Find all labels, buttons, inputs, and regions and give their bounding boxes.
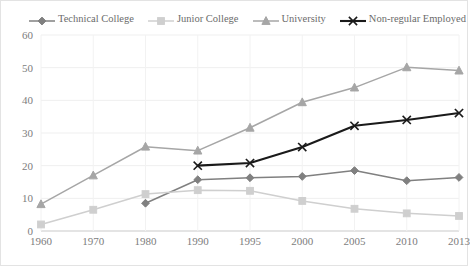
data-point-square — [90, 206, 97, 213]
y-axis-tick-label: 30 — [9, 127, 33, 139]
legend-item[interactable]: Non-regular Employed — [340, 13, 466, 25]
data-point-diamond — [194, 176, 202, 184]
data-point-square — [142, 191, 149, 198]
data-point-square — [158, 18, 165, 25]
y-axis-tick-label: 20 — [9, 160, 33, 172]
data-point-diamond — [351, 167, 359, 175]
legend-item-label: Technical College — [58, 13, 134, 25]
data-point-diamond — [142, 199, 150, 207]
cross-marker-icon — [340, 13, 366, 25]
legend-item[interactable]: Junior College — [148, 13, 239, 25]
legend-item[interactable]: University — [253, 13, 326, 25]
x-axis-tick-label: 1980 — [135, 235, 157, 247]
x-axis-tick-label: 2005 — [344, 235, 366, 247]
series-line — [198, 113, 459, 166]
chart-legend: Technical CollegeJunior CollegeUniversit… — [29, 9, 465, 29]
series-line — [41, 190, 459, 224]
data-point-diamond — [298, 173, 306, 181]
x-axis-tick-label: 1990 — [187, 235, 209, 247]
y-axis-tick-label: 40 — [9, 94, 33, 106]
data-point-square — [299, 198, 306, 205]
y-axis-tick-label: 50 — [9, 62, 33, 74]
legend-item-label: Non-regular Employed — [369, 13, 466, 25]
series-line — [41, 67, 459, 204]
data-point-square — [456, 213, 463, 220]
plot-area — [41, 35, 459, 231]
x-axis-tick-label: 1995 — [239, 235, 261, 247]
y-axis: 0102030405060 — [1, 35, 37, 231]
series-group — [38, 187, 463, 228]
y-axis-tick-label: 60 — [9, 29, 33, 41]
series-group — [194, 109, 463, 170]
legend-item[interactable]: Technical College — [29, 13, 134, 25]
data-point-diamond — [38, 17, 46, 25]
triangle-marker-icon — [253, 13, 279, 25]
data-point-diamond — [246, 174, 254, 182]
data-point-square — [351, 205, 358, 212]
data-point-square — [403, 210, 410, 217]
x-axis-tick-label: 2000 — [291, 235, 313, 247]
data-point-triangle — [89, 171, 97, 179]
data-point-diamond — [403, 177, 411, 185]
data-point-diamond — [455, 174, 463, 182]
square-marker-icon — [148, 13, 174, 25]
diamond-marker-icon — [29, 13, 55, 25]
x-axis: 196019701980199019952000200520102013 — [41, 233, 459, 255]
series-layer — [41, 35, 459, 231]
legend-item-label: University — [282, 13, 326, 25]
data-point-triangle — [37, 200, 45, 208]
y-axis-tick-label: 10 — [9, 192, 33, 204]
data-point-square — [38, 221, 45, 228]
legend-item-label: Junior College — [177, 13, 239, 25]
x-axis-tick-label: 2010 — [396, 235, 418, 247]
x-axis-tick-label: 2013 — [448, 235, 470, 247]
data-point-triangle — [246, 123, 254, 131]
series-group — [37, 63, 463, 208]
x-axis-tick-label: 1970 — [82, 235, 104, 247]
x-axis-tick-label: 1960 — [30, 235, 52, 247]
data-point-square — [194, 187, 201, 194]
data-point-square — [247, 187, 254, 194]
